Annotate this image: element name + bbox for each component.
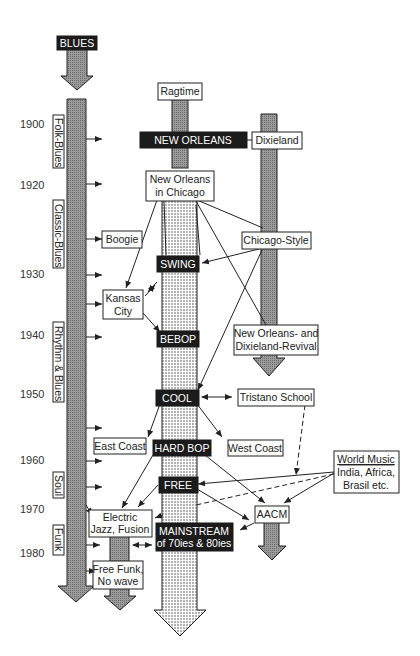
east-coast-label: East Coast	[94, 440, 145, 452]
new-orleans-chicago-line2: in Chicago	[155, 186, 205, 198]
free-funk-line2: No wave	[98, 575, 139, 587]
mainstream-line2: of 70ies & 80ies	[157, 537, 232, 549]
hard-bop-label: HARD BOP	[155, 442, 210, 454]
free-label: FREE	[164, 479, 192, 491]
era-funk: Funk	[53, 528, 65, 552]
world-music-line1: World Music	[337, 453, 395, 465]
revival-line1: New Orleans- and	[234, 327, 319, 339]
year-1900: 1900	[20, 118, 44, 130]
tristano-label: Tristano School	[240, 391, 313, 403]
era-classic-blues: Classic-Blues	[53, 204, 65, 268]
ragtime-label: Ragtime	[160, 85, 199, 97]
side-styles: Ragtime Dixieland New Orleans in Chicago…	[89, 83, 399, 589]
world-music-line2: India, Africa,	[337, 466, 395, 478]
year-1970: 1970	[20, 503, 44, 515]
free-funk-line1: Free Funk,	[93, 563, 144, 575]
world-music-line3: Brasil etc.	[343, 479, 389, 491]
new-orleans-label: NEW ORLEANS	[154, 134, 232, 146]
blues-down-arrow-icon	[61, 50, 93, 90]
aacm-label: AACM	[257, 508, 287, 520]
bebop-label: BEBOP	[160, 333, 196, 345]
west-coast-label: West Coast	[228, 442, 282, 454]
dixieland-label: Dixieland	[255, 134, 298, 146]
fusion-line2: Jazz, Fusion	[91, 523, 150, 535]
new-orleans-chicago-line1: New Orleans	[150, 173, 211, 185]
aacm-column	[258, 522, 286, 560]
chicago-style-label: Chicago-Style	[243, 234, 309, 246]
year-axis: 1900 1920 1930 1940 1950 1960 1970 1980	[20, 118, 44, 559]
blues-head: BLUES	[57, 36, 97, 90]
revival-line2: Dixieland-Revival	[235, 340, 316, 352]
era-soul: Soul	[53, 475, 65, 496]
year-1950: 1950	[20, 388, 44, 400]
cool-label: COOL	[162, 392, 192, 404]
era-rhythm-blues: Rhythm & Blues	[53, 326, 65, 401]
mainstream-line1: MAINSTREAM	[159, 525, 229, 537]
blues-label: BLUES	[60, 37, 94, 49]
boogie-label: Boogie	[106, 233, 139, 245]
year-1940: 1940	[20, 329, 44, 341]
swing-label: SWING	[160, 258, 196, 270]
blues-eras: Folk-Blues Classic-Blues Rhythm & Blues …	[53, 115, 65, 555]
year-1980: 1980	[20, 547, 44, 559]
era-folk-blues: Folk-Blues	[53, 118, 65, 168]
kansas-city-line1: Kansas	[105, 292, 140, 304]
blues-branch-arrows	[86, 139, 102, 571]
kansas-city-line2: City	[114, 305, 133, 317]
fusion-line1: Electric	[103, 511, 137, 523]
jazz-genealogy-diagram: 1900 1920 1930 1940 1950 1960 1970 1980 …	[0, 0, 420, 656]
year-1920: 1920	[20, 179, 44, 191]
year-1960: 1960	[20, 454, 44, 466]
year-1930: 1930	[20, 268, 44, 280]
